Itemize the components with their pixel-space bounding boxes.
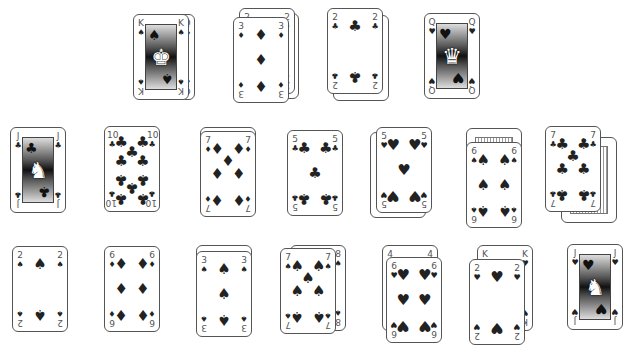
card-10-of-clubs[interactable]: 10♣10♣10♣10♣♣♣♣♣♣♣♣♣♣♣ [104,126,160,212]
clubs-pip-icon: ♣ [296,140,312,155]
rank-label: 2 [57,250,63,260]
figure-icon: ♚ [151,45,171,70]
clubs-icon: ♣ [25,140,38,156]
rank-label: 2 [514,331,520,341]
clubs-icon: ♣ [330,71,340,80]
card-2-of-spades[interactable]: 2♠2♠2♠2♠♠♠ [12,246,68,332]
card-5-of-hearts[interactable]: 5♥5♥5♥5♥♥♥♥♥♥ [376,127,432,213]
diamonds-pip-icon: ♦ [209,167,225,182]
card-3-of-spades[interactable]: 3♠3♠3♠3♠♠♠♠ [196,251,252,337]
hearts-icon: ♥ [439,26,452,42]
card-index: 2♥ [472,264,482,282]
rank-label: 3 [238,21,244,31]
spades-pip-icon: ♠ [32,307,48,322]
card-6-of-spades[interactable]: 6♠6♠6♠6♠♠♠♠♠♠♠ [466,142,522,228]
figure-icon: ♞ [28,158,48,183]
card-index: K♠ [176,77,186,95]
clubs-pip-icon: ♣ [296,191,312,206]
rank-label: 3 [278,21,284,31]
hearts-icon: ♥ [467,27,477,36]
clubs-pip-icon: ♣ [576,162,592,177]
card-index: 3♦ [236,22,246,40]
rank-label: 3 [241,255,247,265]
card-6-of-diamonds[interactable]: 6♦6♦6♦6♦♦♦♦♦♦♦ [104,246,160,332]
rank-label: K [178,18,184,28]
rank-label: K [178,86,184,96]
clubs-icon: ♣ [370,71,380,80]
spades-icon: ♠ [15,260,25,269]
diamonds-pip-icon: ♦ [231,192,247,207]
rank-label: 3 [278,89,284,99]
hearts-icon: ♥ [512,322,522,331]
rank-label: 2 [332,80,338,90]
rank-label: 2 [57,318,63,328]
hearts-pip-icon: ♥ [395,267,411,282]
spades-pip-icon: ♠ [475,152,491,167]
rank-label: J [57,199,60,209]
spades-icon: ♠ [55,309,65,318]
hearts-icon: ♥ [467,76,477,85]
rank-label: 2 [372,12,378,22]
card-7-of-diamonds[interactable]: 7♦7♦7♦7♦♦♦♦♦♦♦♦ [200,131,256,217]
rank-label: J [574,316,577,326]
clubs-icon: ♣ [53,190,63,199]
hearts-pip-icon: ♥ [395,318,411,333]
card-index: J♣ [53,132,63,150]
rank-label: 2 [17,250,23,260]
rank-label: Q [428,17,435,27]
card-index: 2♣ [370,71,380,89]
card-index: 2♥ [512,322,522,340]
spades-pip-icon: ♠ [475,203,491,218]
clubs-pip-icon: ♣ [135,190,151,205]
diamonds-icon: ♦ [236,31,246,40]
diamonds-pip-icon: ♦ [209,192,225,207]
spades-pip-icon: ♠ [216,261,232,276]
card-index: 2♠ [55,251,65,269]
diamonds-pip-icon: ♦ [135,307,151,322]
card-Q-of-hearts[interactable]: Q♥Q♥Q♥Q♥♥♛♥ [424,13,480,99]
rank-label: 3 [241,323,247,333]
card-2-of-clubs[interactable]: 2♣2♣2♣2♣♣♣ [327,8,383,94]
spades-pip-icon: ♠ [32,256,48,271]
card-index: 2♣ [370,13,380,31]
diamonds-pip-icon: ♦ [135,282,151,297]
clubs-pip-icon: ♣ [576,187,592,202]
clubs-pip-icon: ♣ [347,18,363,33]
rank-label: J [614,248,617,258]
spades-pip-icon: ♠ [475,178,491,193]
card-5-of-clubs[interactable]: 5♣5♣5♣5♣♣♣♣♣♣ [287,130,343,216]
rank-label: 2 [17,318,23,328]
diamonds-icon: ♦ [276,31,286,40]
spades-pip-icon: ♠ [497,178,513,193]
rank-label: 2 [474,331,480,341]
diamonds-pip-icon: ♦ [113,256,129,271]
spades-icon: ♠ [176,77,186,86]
card-J-of-hearts[interactable]: J♥J♥J♥J♥♥♞♥ [567,244,623,330]
card-7-of-spades[interactable]: 7♠7♠7♠7♠♠♠♠♠♠♠♠ [280,248,336,334]
card-6-of-hearts[interactable]: 6♥6♥6♥6♥♥♥♥♥♥♥ [386,257,442,343]
clubs-pip-icon: ♣ [318,191,334,206]
clubs-pip-icon: ♣ [347,69,363,84]
hearts-icon: ♥ [595,301,608,317]
diamonds-pip-icon: ♦ [253,78,269,93]
hearts-icon: ♥ [472,273,482,282]
spades-icon: ♠ [55,260,65,269]
card-J-of-clubs[interactable]: J♣J♣J♣J♣♣♞♣ [10,127,66,213]
clubs-pip-icon: ♣ [113,153,129,168]
clubs-icon: ♣ [53,141,63,150]
card-K-of-spades[interactable]: K♠K♠K♠K♠♠♚♠ [133,14,189,100]
hearts-pip-icon: ♥ [396,163,412,178]
face-card-artwork: ♥♞♥ [579,254,611,320]
rank-label: 2 [514,263,520,273]
card-7-of-clubs[interactable]: 7♣7♣7♣7♣♣♣♣♣♣♣♣ [545,126,601,212]
spades-pip-icon: ♠ [289,284,305,299]
hearts-icon: ♥ [610,258,620,267]
clubs-icon: ♣ [38,184,51,200]
card-3-of-diamonds[interactable]: 3♦3♦3♦3♦♦♦♦ [233,17,289,103]
clubs-pip-icon: ♣ [318,140,334,155]
card-2-of-hearts[interactable]: 2♥2♥2♥2♥♥♥ [469,259,525,345]
rank-label: J [574,248,577,258]
card-index: 3♦ [276,80,286,98]
hearts-pip-icon: ♥ [417,267,433,282]
rank-label: Q [468,85,475,95]
